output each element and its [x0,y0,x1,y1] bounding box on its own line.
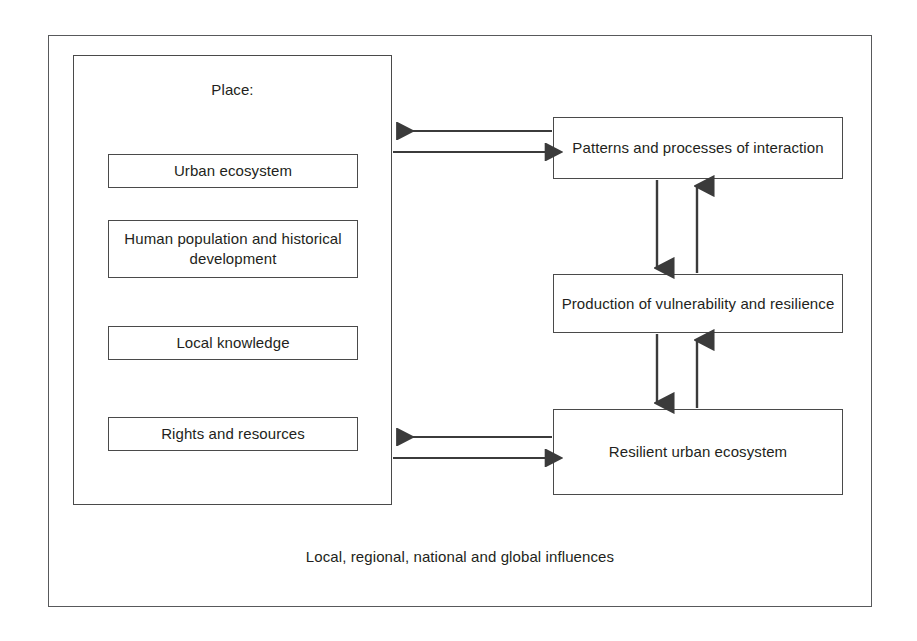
process-box-resilient-urban-ecosystem: Resilient urban ecosystem [553,409,843,495]
process-box-label: Patterns and processes of interaction [572,138,823,158]
diagram-canvas: Place: Urban ecosystem Human population … [0,0,917,641]
place-panel-title: Place: [74,80,391,100]
process-box-patterns-and-processes-of-interaction: Patterns and processes of interaction [553,117,843,179]
place-item-label: Human population and historical developm… [109,229,357,269]
place-item-label: Local knowledge [176,333,289,353]
process-box-label: Resilient urban ecosystem [609,442,787,462]
place-item-urban-ecosystem: Urban ecosystem [108,154,358,188]
place-item-human-population-and-historical-development: Human population and historical developm… [108,220,358,278]
place-item-local-knowledge: Local knowledge [108,326,358,360]
process-box-production-of-vulnerability-and-resilience: Production of vulnerability and resilien… [553,274,843,333]
place-item-label: Urban ecosystem [174,161,292,181]
context-influences-caption: Local, regional, national and global inf… [48,548,872,565]
place-item-rights-and-resources: Rights and resources [108,417,358,451]
process-box-label: Production of vulnerability and resilien… [562,294,835,314]
place-item-label: Rights and resources [161,424,305,444]
